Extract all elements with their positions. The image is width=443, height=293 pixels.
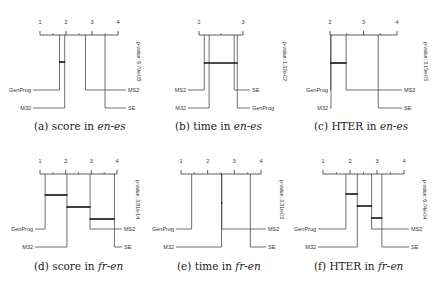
method-label: M32 — [305, 244, 316, 250]
method-label: MS2 — [175, 87, 186, 93]
caption-text: (a) score in — [34, 120, 97, 132]
method-label: MS2 — [404, 87, 415, 93]
panel-caption-d: (d) score in fr-en — [34, 260, 123, 272]
panel-caption-c: (c) HTER in en-es — [314, 120, 408, 132]
method-line — [114, 174, 122, 247]
p-value-label: p-value: 6.74e-04 — [422, 180, 428, 219]
method-line — [90, 174, 122, 229]
method-label: SE — [411, 244, 419, 250]
method-label: MS2 — [268, 226, 279, 232]
method-label: M32 — [20, 105, 31, 111]
method-line — [33, 35, 65, 108]
method-line — [35, 174, 67, 247]
method-label: SE — [252, 87, 260, 93]
figure-canvas: 1234GenProgM32MS2SEp-value: 6.79e-0823MS… — [0, 0, 443, 293]
axis-tick-label: 1 — [179, 158, 182, 164]
axis-tick-label: 2 — [348, 158, 351, 164]
method-line — [176, 174, 222, 247]
method-line — [35, 174, 45, 229]
caption-language-pair: fr-en — [98, 260, 123, 272]
caption-language-pair: en-es — [97, 120, 125, 132]
axis-tick-label: 3 — [375, 158, 378, 164]
method-line — [86, 35, 127, 90]
method-label: MS2 — [124, 226, 135, 232]
cd-panel-c: 234GenProgM32MS2SEp-value: 3.15e-05 — [306, 19, 429, 111]
axis-tick-label: 4 — [259, 158, 262, 164]
method-line — [318, 174, 357, 247]
caption-language-pair: en-es — [380, 120, 408, 132]
axis-tick-label: 4 — [395, 19, 398, 25]
axis-tick-label: 3 — [233, 158, 236, 164]
p-value-label: p-value: 3.81e-14 — [135, 180, 141, 219]
panel-caption-b: (b) time in en-es — [175, 120, 262, 132]
caption-text: (e) time in — [177, 260, 235, 272]
axis-tick-label: 4 — [116, 19, 119, 25]
axis-tick-label: 4 — [402, 158, 405, 164]
p-value-label: p-value: 3.31e-03 — [279, 180, 285, 219]
method-line — [222, 174, 266, 229]
axis-tick-label: 1 — [38, 19, 41, 25]
cd-panel-d: 1234GenProgM32MS2SEp-value: 3.81e-14 — [11, 158, 141, 250]
method-line — [346, 35, 402, 90]
method-label: GenProg — [9, 87, 31, 93]
caption-text: (c) HTER in — [314, 120, 380, 132]
p-value-label: p-value: 3.15e-05 — [423, 42, 429, 81]
cd-panel-f: 1234GenProgM32MS2SEp-value: 6.74e-04 — [294, 158, 428, 250]
method-line — [318, 174, 346, 229]
panel-caption-e: (e) time in fr-en — [177, 260, 261, 272]
axis-tick-label: 2 — [64, 158, 67, 164]
axis-tick-label: 2 — [64, 19, 67, 25]
axis-tick-label: 3 — [90, 19, 93, 25]
method-line — [372, 174, 409, 229]
caption-text: (f) HTER in — [314, 260, 378, 272]
method-line — [382, 174, 409, 247]
method-label: MS2 — [411, 226, 422, 232]
method-label: GenProg — [11, 226, 33, 232]
cd-panel-e: 1234GenProgM32MS2SEp-value: 3.31e-03 — [152, 158, 285, 250]
axis-tick-label: 2 — [328, 19, 331, 25]
method-label: MS2 — [128, 87, 139, 93]
axis-tick-label: 3 — [241, 19, 244, 25]
method-line — [105, 35, 126, 108]
caption-text: (d) score in — [34, 260, 98, 272]
caption-language-pair: fr-en — [378, 260, 403, 272]
method-label: M32 — [317, 105, 328, 111]
method-line — [188, 35, 204, 90]
axis-tick-label: 1 — [38, 158, 41, 164]
axis-tick-label: 3 — [90, 158, 93, 164]
axis-tick-label: 2 — [197, 19, 200, 25]
axis-tick-label: 2 — [206, 158, 209, 164]
method-line — [237, 35, 250, 108]
method-line — [378, 35, 402, 108]
p-value-label: p-value: 1.32e-02 — [282, 42, 288, 81]
method-label: GenProg — [294, 226, 316, 232]
method-label: GenProg — [306, 87, 328, 93]
method-label: SE — [268, 244, 276, 250]
cd-panel-b: 23MS2M32SEGenProgp-value: 1.32e-02 — [175, 19, 288, 111]
method-line — [176, 174, 192, 229]
method-label: SE — [128, 105, 136, 111]
axis-tick-label: 4 — [115, 158, 118, 164]
method-line — [250, 174, 266, 247]
caption-text: (b) time in — [175, 120, 234, 132]
method-label: M32 — [22, 244, 33, 250]
panel-caption-f: (f) HTER in fr-en — [314, 260, 403, 272]
axis-tick-label: 3 — [362, 19, 365, 25]
caption-language-pair: en-es — [234, 120, 262, 132]
method-label: SE — [404, 105, 412, 111]
method-label: M32 — [175, 105, 186, 111]
method-label: GenProg — [252, 105, 274, 111]
method-label: GenProg — [152, 226, 174, 232]
method-label: M32 — [163, 244, 174, 250]
p-value-label: p-value: 6.79e-08 — [136, 42, 142, 81]
cd-panel-a: 1234GenProgM32MS2SEp-value: 6.79e-08 — [9, 19, 142, 111]
method-line — [188, 35, 209, 108]
axis-tick-label: 1 — [321, 158, 324, 164]
caption-language-pair: fr-en — [235, 260, 260, 272]
panel-caption-a: (a) score in en-es — [34, 120, 126, 132]
method-line — [33, 35, 60, 90]
method-label: SE — [124, 244, 132, 250]
